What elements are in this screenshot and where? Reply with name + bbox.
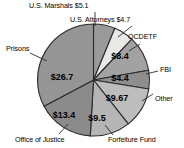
pie-chart-figure: $8.4$4.4$9.67$9.5$13.4$26.7 U.S. Marshal… — [0, 0, 184, 148]
callout-label-forfeiture-fund: Forfeiture Fund — [108, 136, 156, 144]
slice-value-other: $9.67 — [106, 93, 129, 103]
callout-label-other: Other — [155, 95, 172, 103]
callout-label-fbi: FBI — [160, 66, 171, 74]
slice-value-prisons: $26.7 — [51, 72, 74, 82]
slice-value-office-of-justice: $13.4 — [53, 110, 76, 120]
slice-value-forfeiture-fund: $9.5 — [88, 113, 106, 123]
callout-label-office-of-justice: Office of Justice — [15, 136, 64, 144]
slice-value-ocdetf: $8.4 — [111, 51, 129, 61]
callout-label-us-attorneys: U.S. Attorneys $4.7 — [70, 16, 130, 24]
slice-value-fbi: $4.4 — [111, 73, 129, 83]
callout-label-us-marshals: U.S. Marshals $5.1 — [29, 2, 88, 10]
callout-label-prisons: Prisons — [6, 45, 29, 53]
callout-label-ocdetf: OCDETF — [128, 33, 157, 41]
